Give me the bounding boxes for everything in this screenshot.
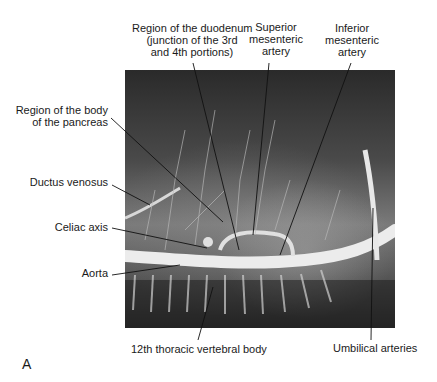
label-ductus-venosus: Ductus venosus (10, 176, 108, 188)
anatomy-figure: Region of the duodenum (junction of the … (0, 0, 437, 382)
label-inferior-mesenteric-artery: Inferior mesenteric artery (322, 22, 382, 58)
label-line: Inferior (322, 22, 382, 34)
label-superior-mesenteric-artery: Superior mesenteric artery (246, 21, 306, 57)
label-line: mesenteric (322, 34, 382, 46)
arteriogram-image (125, 70, 395, 328)
label-12th-thoracic-vertebral-body: 12th thoracic vertebral body (131, 343, 267, 355)
label-pancreas: Region of the body of the pancreas (10, 104, 108, 128)
label-umbilical-arteries: Umbilical arteries (333, 342, 417, 354)
label-celiac-axis: Celiac axis (10, 221, 108, 233)
label-aorta: Aorta (10, 267, 108, 279)
label-line: (junction of the 3rd (132, 34, 252, 46)
label-line: artery (246, 45, 306, 57)
label-line: Region of the duodenum (132, 22, 252, 34)
label-line: Region of the body (10, 104, 108, 116)
label-line: mesenteric (246, 33, 306, 45)
label-line: Superior (246, 21, 306, 33)
panel-letter: A (22, 356, 31, 372)
label-line: artery (322, 46, 382, 58)
label-line: and 4th portions) (132, 46, 252, 58)
label-duodenum: Region of the duodenum (junction of the … (132, 22, 252, 58)
label-line: of the pancreas (10, 116, 108, 128)
